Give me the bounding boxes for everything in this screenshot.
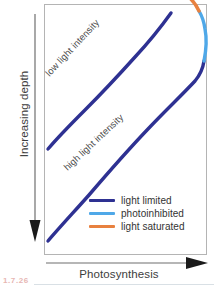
x-axis-label: Photosynthesis xyxy=(44,268,194,280)
caption-divider xyxy=(34,284,214,285)
legend-label-photoinhibited: photoinhibited xyxy=(121,208,184,219)
y-axis-label: Increasing depth xyxy=(18,24,30,204)
legend-item-light-saturated: light saturated xyxy=(89,221,205,232)
caption-fragment: 1.7.26 xyxy=(3,276,29,285)
legend-item-photoinhibited: photoinhibited xyxy=(89,208,205,219)
legend-label-light-saturated: light saturated xyxy=(121,221,185,232)
legend-swatch-light-saturated xyxy=(89,225,115,228)
plot-area: light limited photoinhibited light satur… xyxy=(44,4,207,255)
photosynthesis-depth-figure: Increasing depth light limited photoinhi… xyxy=(0,0,214,290)
curve-light-saturated xyxy=(164,0,199,11)
curve-photoinhibited xyxy=(199,11,206,61)
legend-swatch-light-limited xyxy=(89,199,115,202)
y-axis-group: Increasing depth xyxy=(0,4,44,255)
legend: light limited photoinhibited light satur… xyxy=(89,195,205,234)
legend-swatch-photoinhibited xyxy=(89,212,115,215)
legend-item-light-limited: light limited xyxy=(89,195,205,206)
legend-label-light-limited: light limited xyxy=(121,195,172,206)
